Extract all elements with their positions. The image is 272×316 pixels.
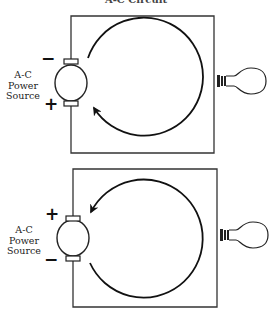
top-terminal-sign: −: [41, 50, 55, 67]
label-line: Source: [4, 91, 42, 102]
power-source-icon: [55, 59, 87, 106]
label-line: Source: [5, 246, 43, 257]
current-direction-arrow-icon: [88, 18, 203, 136]
power-source-label: A-C Power Source: [4, 70, 42, 102]
light-bulb-icon: [217, 68, 266, 94]
current-direction-arrow-icon: [90, 180, 203, 298]
bottom-circuit: [57, 169, 268, 307]
power-source-icon: [57, 216, 89, 261]
label-line: A-C: [5, 225, 43, 236]
top-circuit: [55, 16, 266, 153]
power-source-label: A-C Power Source: [5, 225, 43, 257]
circuit-wire: [73, 169, 217, 307]
bottom-terminal-sign: +: [44, 96, 58, 113]
label-line: A-C: [4, 70, 42, 81]
bottom-terminal-sign: −: [44, 251, 58, 268]
light-bulb-icon: [220, 222, 268, 248]
top-terminal-sign: +: [45, 206, 59, 223]
circuit-wire: [71, 16, 214, 153]
